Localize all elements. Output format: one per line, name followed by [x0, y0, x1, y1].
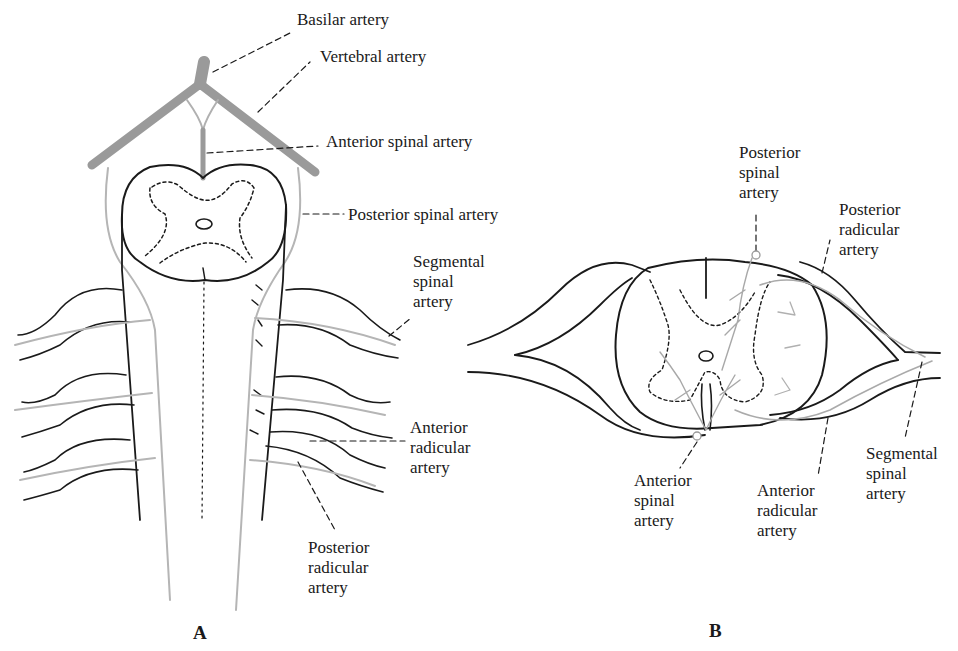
label-anterior-spinal-artery-b: Anterior spinal artery [634, 471, 692, 531]
panel-letter-b: B [709, 620, 722, 642]
panel-letter-a: A [193, 622, 207, 644]
cord-cross-section-a [122, 165, 286, 281]
panel-a-drawing [15, 32, 411, 610]
label-anterior-radicular-artery-a: Anterior radicular artery [410, 418, 470, 478]
label-posterior-spinal-artery-a: Posterior spinal artery [348, 205, 498, 225]
cord-body-a [122, 205, 286, 520]
label-posterior-radicular-artery-a: Posterior radicular artery [308, 538, 369, 598]
label-basilar-artery: Basilar artery [297, 10, 389, 30]
label-segmental-spinal-artery-b: Segmental spinal artery [866, 444, 938, 504]
label-vertebral-artery: Vertebral artery [320, 47, 426, 67]
label-segmental-spinal-artery-a: Segmental spinal artery [413, 252, 485, 312]
label-posterior-spinal-artery-b: Posterior spinal artery [739, 143, 800, 203]
label-anterior-spinal-artery-a: Anterior spinal artery [326, 132, 472, 152]
label-anterior-radicular-artery-b: Anterior radicular artery [757, 481, 817, 541]
nerve-roots-left [15, 288, 155, 500]
leader-lines-a [207, 32, 411, 530]
figure-canvas [0, 0, 958, 651]
label-posterior-radicular-artery-b: Posterior radicular artery [839, 200, 900, 260]
